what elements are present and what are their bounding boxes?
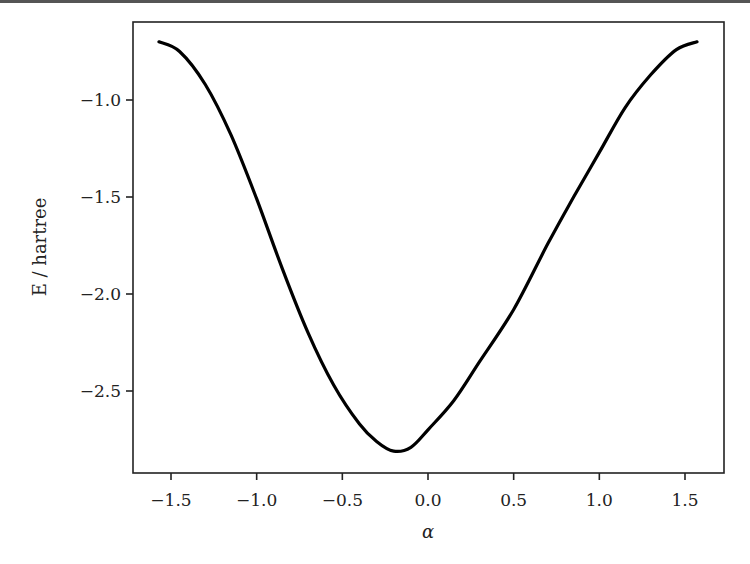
y-tick-label: −1.5 (80, 187, 121, 207)
x-tick-label: 1.0 (586, 490, 613, 510)
y-tick-label: −2.5 (80, 381, 121, 401)
x-tick-label: −0.5 (322, 490, 363, 510)
y-tick-label: −2.0 (80, 284, 121, 304)
x-axis-label: α (422, 521, 434, 542)
x-axis-ticks: −1.5−1.0−0.50.00.51.01.5 (150, 473, 698, 510)
energy-curve-line (159, 42, 697, 452)
axes-frame (133, 22, 724, 473)
x-tick-label: 1.5 (671, 490, 698, 510)
y-axis-label: E / hartree (29, 198, 50, 297)
x-tick-label: −1.5 (150, 490, 191, 510)
y-axis-ticks: −1.0−1.5−2.0−2.5 (80, 90, 133, 401)
y-tick-label: −1.0 (80, 90, 121, 110)
x-tick-label: 0.0 (414, 490, 441, 510)
energy-curve-chart: −1.5−1.0−0.50.00.51.01.5 −1.0−1.5−2.0−2.… (0, 0, 750, 564)
x-tick-label: −1.0 (236, 490, 277, 510)
x-tick-label: 0.5 (500, 490, 527, 510)
